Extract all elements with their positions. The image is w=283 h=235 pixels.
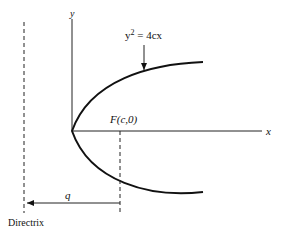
directrix-label: Directrix bbox=[8, 217, 44, 228]
parabola-diagram: y x y2 = 4cx F(c,0) q Directrix bbox=[0, 0, 283, 235]
y-axis-label: y bbox=[69, 8, 75, 19]
parabola-curve bbox=[72, 62, 203, 193]
equation-rest: = 4cx bbox=[135, 29, 163, 41]
x-axis-label: x bbox=[265, 125, 271, 137]
equation-label: y2 = 4cx bbox=[125, 28, 163, 41]
distance-label: q bbox=[65, 189, 71, 201]
focus-label: F(c,0) bbox=[109, 113, 138, 126]
